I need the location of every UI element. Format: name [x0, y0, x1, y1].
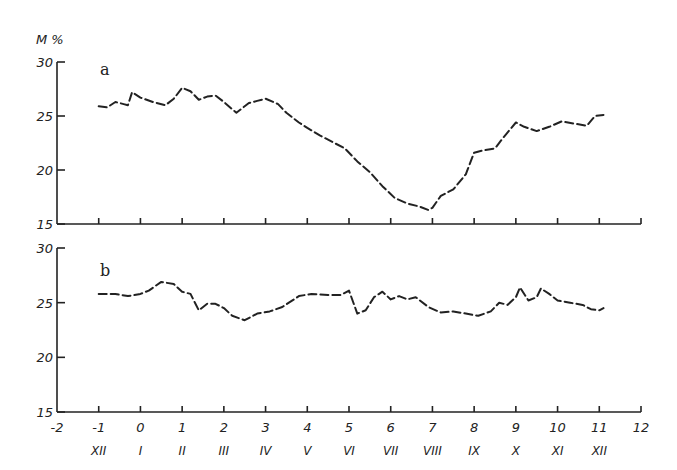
x-tick-label: 0: [136, 420, 144, 435]
y-axis-label: M %: [36, 32, 64, 47]
month-label: III: [219, 444, 230, 458]
chart-canvas: M %30252015a30252015b-2-1012345678910111…: [0, 0, 677, 470]
x-tick-label: -1: [92, 420, 105, 435]
y-tick-label: 25: [36, 109, 53, 124]
month-label: XII: [591, 444, 608, 458]
month-label: II: [179, 444, 187, 458]
x-tick-label: 1: [178, 420, 186, 435]
x-tick-label: 5: [345, 420, 353, 435]
month-label: XII: [90, 444, 107, 458]
month-label: X: [511, 444, 521, 458]
month-label: IV: [260, 444, 273, 458]
month-label: XI: [551, 444, 564, 458]
x-tick-label: 12: [633, 420, 650, 435]
x-tick-label: 11: [591, 420, 608, 435]
month-label: V: [303, 444, 312, 458]
panel-label: b: [100, 261, 110, 280]
y-tick-label: 25: [36, 296, 53, 311]
x-tick-label: 9: [512, 420, 520, 435]
y-tick-label: 30: [36, 55, 53, 70]
y-tick-label: 20: [36, 163, 53, 178]
x-tick-label: 2: [220, 420, 228, 435]
x-tick-label: 4: [303, 420, 311, 435]
month-label: I: [139, 444, 143, 458]
data-line-a: [99, 88, 604, 210]
x-tick-label: 3: [261, 420, 269, 435]
x-tick-label: 6: [387, 420, 395, 435]
x-tick-label: 10: [549, 420, 566, 435]
data-line-b: [99, 282, 604, 320]
month-label: VIII: [423, 444, 442, 458]
y-tick-label: 30: [36, 241, 53, 256]
panel-label: a: [100, 60, 110, 79]
month-label: VII: [383, 444, 399, 458]
y-tick-label: 20: [36, 350, 53, 365]
x-tick-label: 7: [428, 420, 437, 435]
y-tick-label: 15: [36, 217, 53, 232]
x-tick-label: 8: [470, 420, 478, 435]
month-label: VI: [343, 444, 355, 458]
month-label: IX: [468, 444, 481, 458]
y-tick-label: 15: [36, 405, 53, 420]
x-tick-label: -2: [51, 420, 64, 435]
